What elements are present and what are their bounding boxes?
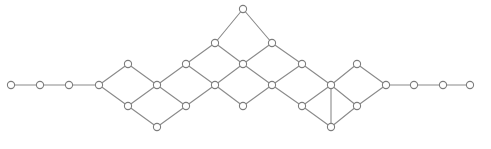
graph-node — [182, 102, 189, 109]
graph-node — [239, 5, 246, 12]
graph-edge — [157, 64, 186, 85]
graph-edge — [243, 85, 272, 106]
graph-node — [124, 102, 131, 109]
graph-edge — [272, 64, 302, 85]
graph-node — [182, 60, 189, 67]
graph-edge — [215, 9, 243, 43]
graph-edge — [243, 64, 272, 85]
graph-node — [298, 102, 305, 109]
graph-edge — [331, 106, 357, 127]
graph-edge — [302, 64, 331, 85]
node-layer — [7, 5, 473, 130]
graph-node — [36, 81, 43, 88]
graph-node — [298, 60, 305, 67]
graph-node — [124, 60, 131, 67]
graph-node — [410, 81, 417, 88]
graph-node — [353, 60, 360, 67]
graph-edge — [186, 43, 215, 64]
graph-node — [239, 102, 246, 109]
graph-edge — [243, 43, 272, 64]
graph-edge — [215, 85, 243, 106]
graph-node — [153, 81, 160, 88]
graph-node — [239, 60, 246, 67]
graph-node — [211, 81, 218, 88]
graph-node — [65, 81, 72, 88]
graph-edge — [272, 43, 302, 64]
graph-edge — [243, 9, 272, 43]
graph-edge — [99, 85, 128, 106]
graph-edge — [128, 106, 157, 127]
graph-edge — [215, 64, 243, 85]
graph-edge — [157, 106, 186, 127]
graph-edge — [186, 85, 215, 106]
graph-edge — [99, 64, 128, 85]
graph-edge — [186, 64, 215, 85]
graph-edge — [157, 85, 186, 106]
graph-node — [95, 81, 102, 88]
graph-edge — [302, 106, 331, 127]
graph-edge — [215, 43, 243, 64]
graph-edge — [272, 85, 302, 106]
graph-edge — [302, 85, 331, 106]
graph-node — [7, 81, 14, 88]
graph-edge — [357, 85, 386, 106]
graph-edge — [331, 64, 357, 85]
graph-node — [382, 81, 389, 88]
graph-node — [353, 102, 360, 109]
graph-node — [153, 123, 160, 130]
graph-edge — [357, 64, 386, 85]
graph-node — [439, 81, 446, 88]
graph-edge — [128, 85, 157, 106]
graph-node — [327, 81, 334, 88]
graph-figure — [0, 0, 491, 149]
graph-canvas — [0, 0, 491, 149]
graph-node — [268, 81, 275, 88]
graph-edge — [331, 85, 357, 106]
graph-node — [211, 39, 218, 46]
graph-edge — [128, 64, 157, 85]
graph-node — [268, 39, 275, 46]
graph-node — [466, 81, 473, 88]
graph-node — [327, 123, 334, 130]
